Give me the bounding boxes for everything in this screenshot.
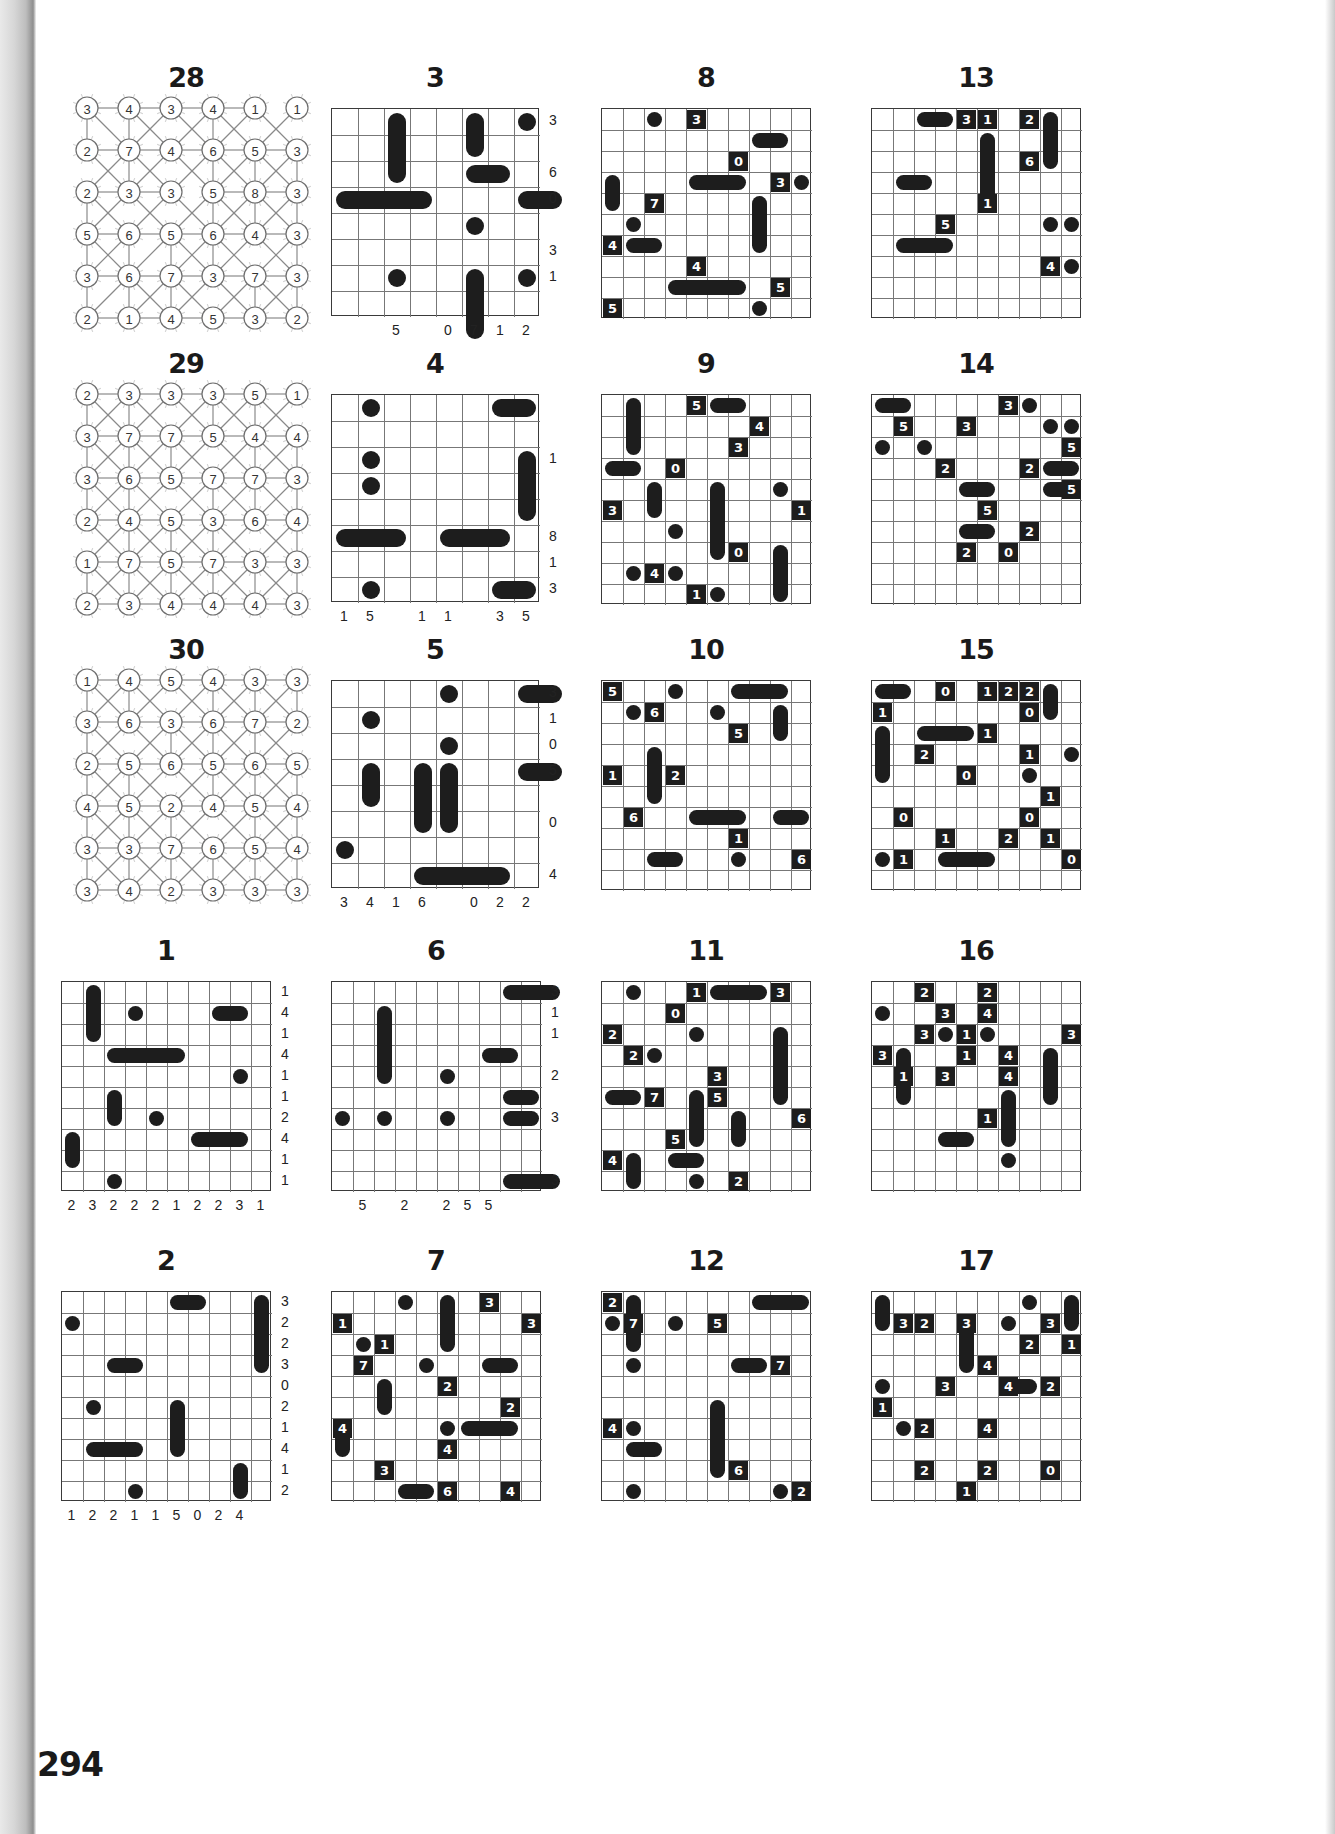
ship-submarine[interactable] [419,1358,434,1373]
ship-submarine[interactable] [626,217,641,232]
grid-frame[interactable]: 012201121010012110 [871,680,1081,890]
ship-horizontal-2[interactable] [647,852,683,867]
grid-frame[interactable]: 32332143421242201 [871,1291,1081,1501]
ship-horizontal-2[interactable] [107,1358,143,1373]
ship-vertical-2[interactable] [1043,684,1058,720]
ship-submarine[interactable] [1043,419,1058,434]
ship-horizontal-2[interactable] [752,133,788,148]
ship-submarine[interactable] [647,1048,662,1063]
ship-submarine[interactable] [938,1027,953,1042]
grid-frame[interactable]: 3126154 [871,108,1081,318]
ship-submarine[interactable] [752,301,767,316]
ship-horizontal-2[interactable] [773,810,809,825]
ship-vertical-2[interactable] [647,482,662,518]
ship-vertical-3[interactable] [773,545,788,602]
ship-horizontal-2[interactable] [731,1358,767,1373]
ship-submarine[interactable] [440,1421,455,1436]
grid-frame[interactable]: 130223576542 [601,981,811,1191]
ship-horizontal-2[interactable] [492,399,536,417]
ship-vertical-2[interactable] [731,1111,746,1147]
ship-horizontal-2[interactable] [626,1442,662,1457]
ship-vertical-2[interactable] [875,1295,890,1331]
ship-vertical-3[interactable] [388,113,406,183]
grid-frame[interactable] [61,981,271,1191]
ship-submarine[interactable] [1022,768,1037,783]
ship-submarine[interactable] [1022,398,1037,413]
grid-frame[interactable]: 35352255220 [871,394,1081,604]
ship-horizontal-2[interactable] [875,684,911,699]
ship-submarine[interactable] [896,1421,911,1436]
ship-vertical-3[interactable] [1001,1090,1016,1147]
ship-horizontal-3[interactable] [938,852,995,867]
ship-submarine[interactable] [1064,217,1079,232]
ship-submarine[interactable] [689,1027,704,1042]
ship-horizontal-4[interactable] [668,280,746,295]
ship-horizontal-2[interactable] [896,175,932,190]
ship-submarine[interactable] [398,1295,413,1310]
ship-horizontal-4[interactable] [107,1048,185,1063]
ship-vertical-3[interactable] [626,398,641,455]
ship-submarine[interactable] [980,1027,995,1042]
ship-submarine[interactable] [731,852,746,867]
ship-horizontal-2[interactable] [482,1048,518,1063]
ship-submarine[interactable] [440,1111,455,1126]
ship-vertical-2[interactable] [65,1132,80,1168]
ship-horizontal-3[interactable] [336,529,406,547]
ship-horizontal-2[interactable] [605,461,641,476]
ship-submarine[interactable] [362,477,380,495]
ship-submarine[interactable] [336,841,354,859]
ship-submarine[interactable] [388,269,406,287]
ship-vertical-2[interactable] [1064,1295,1079,1331]
grid-frame[interactable]: 56521616 [601,680,811,890]
ship-horizontal-4[interactable] [414,867,510,885]
ship-submarine[interactable] [1001,1316,1016,1331]
ship-vertical-2[interactable] [377,1379,392,1415]
ship-vertical-3[interactable] [1043,112,1058,169]
ship-submarine[interactable] [440,1069,455,1084]
ship-submarine[interactable] [647,112,662,127]
ship-submarine[interactable] [626,1484,641,1499]
ship-submarine[interactable] [626,1358,641,1373]
ship-submarine[interactable] [362,711,380,729]
ship-submarine[interactable] [233,1069,248,1084]
ship-vertical-3[interactable] [647,747,662,804]
ship-submarine[interactable] [107,1174,122,1189]
ship-horizontal-2[interactable] [668,1153,704,1168]
ship-submarine[interactable] [773,1484,788,1499]
ship-submarine[interactable] [518,113,536,131]
ship-submarine[interactable] [1022,1295,1037,1310]
ship-submarine[interactable] [875,1379,890,1394]
ship-vertical-3[interactable] [414,763,432,833]
ship-submarine[interactable] [689,1174,704,1189]
ship-submarine[interactable] [1064,259,1079,274]
ship-submarine[interactable] [362,399,380,417]
ship-vertical-3[interactable] [875,726,890,783]
ship-submarine[interactable] [440,685,458,703]
grid-frame[interactable] [331,394,539,602]
ship-submarine[interactable] [1043,217,1058,232]
ship-vertical-3[interactable] [518,451,536,521]
ship-horizontal-2[interactable] [875,398,911,413]
ship-submarine[interactable] [335,1111,350,1126]
ship-submarine[interactable] [377,1111,392,1126]
ship-vertical-3[interactable] [752,196,767,253]
ship-submarine[interactable] [128,1484,143,1499]
ship-vertical-4[interactable] [710,482,725,560]
ship-submarine[interactable] [710,587,725,602]
ship-horizontal-2[interactable] [1043,461,1079,476]
ship-vertical-4[interactable] [710,1400,725,1478]
ship-submarine[interactable] [794,175,809,190]
ship-horizontal-3[interactable] [752,1295,809,1310]
ship-horizontal-2[interactable] [959,482,995,497]
ship-vertical-3[interactable] [170,1400,185,1457]
ship-submarine[interactable] [668,684,683,699]
ship-vertical-3[interactable] [689,1090,704,1147]
ship-submarine[interactable] [626,985,641,1000]
ship-submarine[interactable] [1064,747,1079,762]
ship-horizontal-2[interactable] [466,165,510,183]
ship-submarine[interactable] [65,1316,80,1331]
ship-vertical-2[interactable] [626,1153,641,1189]
ship-submarine[interactable] [362,581,380,599]
ship-submarine[interactable] [1001,1153,1016,1168]
ship-submarine[interactable] [626,566,641,581]
